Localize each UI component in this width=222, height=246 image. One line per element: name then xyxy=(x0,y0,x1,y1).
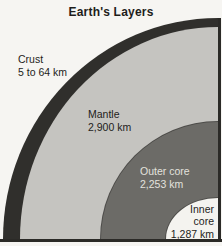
outer-core-name: Outer core xyxy=(140,165,190,178)
figure-bottom-edge xyxy=(0,239,222,242)
earths-layers-figure: Earth's Layers Crust 5 to 64 km Mantle 2… xyxy=(0,0,222,246)
figure-title: Earth's Layers xyxy=(0,5,222,19)
crust-name: Crust xyxy=(18,53,67,66)
inner-core-label: Inner core 1,287 km xyxy=(162,203,214,241)
figure-right-edge xyxy=(218,18,221,242)
mantle-thickness: 2,900 km xyxy=(88,121,131,134)
inner-core-name: Inner core xyxy=(180,203,214,228)
outer-core-label: Outer core 2,253 km xyxy=(140,165,190,190)
crust-thickness: 5 to 64 km xyxy=(18,66,67,79)
mantle-label: Mantle 2,900 km xyxy=(88,108,131,133)
outer-core-thickness: 2,253 km xyxy=(140,178,190,191)
mantle-name: Mantle xyxy=(88,108,131,121)
crust-label: Crust 5 to 64 km xyxy=(18,53,67,78)
